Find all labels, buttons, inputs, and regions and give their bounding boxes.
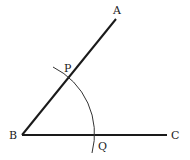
- label-b: B: [9, 129, 17, 142]
- label-p: P: [64, 62, 72, 75]
- label-a: A: [112, 4, 122, 17]
- angle-construction-diagram: A B C P Q: [0, 0, 190, 160]
- construction-arc: [53, 67, 94, 153]
- label-c: C: [171, 129, 179, 142]
- label-q: Q: [98, 140, 107, 153]
